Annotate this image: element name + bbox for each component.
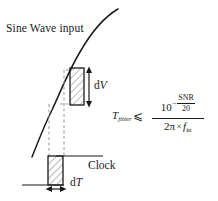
formula-numerator: 10−SNR20 bbox=[158, 98, 198, 118]
formula-f-subscript: in bbox=[186, 126, 191, 134]
formula-exponent: −SNR20 bbox=[172, 94, 195, 113]
formula-times-symbol: × bbox=[176, 122, 181, 131]
formula-denominator: 2π×fin bbox=[161, 119, 195, 132]
dt-hatched-box bbox=[48, 156, 63, 185]
dt-label: dT bbox=[70, 177, 82, 189]
formula-relation-symbol: ⩽ bbox=[133, 109, 143, 124]
dt-arrow-head-right bbox=[60, 186, 67, 192]
formula-pi-symbol: π bbox=[169, 121, 175, 132]
formula-exponent-sign: − bbox=[172, 100, 177, 108]
formula-exponent-denominator: 20 bbox=[181, 105, 191, 114]
formula-exponent-numerator: SNR bbox=[177, 94, 195, 103]
dt-t-glyph: T bbox=[76, 176, 82, 188]
formula-exponent-fraction: SNR20 bbox=[177, 94, 195, 113]
formula-t-subscript: jitter bbox=[118, 115, 132, 123]
formula-fraction: 10−SNR20 2π×fin bbox=[152, 98, 204, 132]
sine-wave-input-label: Sine Wave input bbox=[6, 23, 84, 35]
dt-arrow-head-left bbox=[46, 186, 53, 192]
dv-arrow-head-down bbox=[86, 101, 92, 108]
dv-hatched-box bbox=[70, 68, 84, 105]
dv-arrow-head-up bbox=[86, 67, 92, 74]
dv-v-glyph: V bbox=[100, 79, 107, 91]
dv-label: dV bbox=[94, 80, 107, 92]
formula-f-symbol: fin bbox=[183, 121, 192, 132]
figure-root: Sine Wave input Clock dV dT Tjitter ⩽ 10… bbox=[0, 0, 218, 201]
formula-lhs: Tjitter bbox=[112, 109, 132, 121]
formula-base-ten: 10 bbox=[161, 102, 172, 113]
jitter-formula: Tjitter ⩽ 10−SNR20 2π×fin bbox=[112, 98, 204, 132]
clock-label: Clock bbox=[88, 160, 115, 172]
